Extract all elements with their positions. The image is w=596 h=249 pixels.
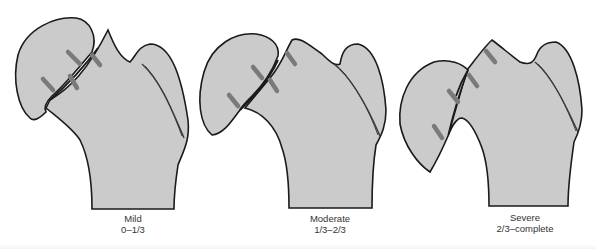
severity-title: Mild xyxy=(78,213,188,224)
severity-range: 2/3–complete xyxy=(470,223,580,234)
severity-range: 1/3–2/3 xyxy=(275,224,385,235)
cropped-caption-strip xyxy=(0,244,596,249)
severity-title: Severe xyxy=(470,212,580,223)
panel-label-mild: Mild 0–1/3 xyxy=(78,213,188,235)
panel-label-moderate: Moderate 1/3–2/3 xyxy=(275,213,385,235)
femur-shaft-neck-severe xyxy=(448,40,582,206)
femoral-head-slip-severity-diagram: Mild 0–1/3 Moderate 1/3–2/3 Severe 2/3–c… xyxy=(0,0,596,249)
femur-moderate xyxy=(200,34,386,208)
femur-severe xyxy=(400,40,582,206)
femur-mild xyxy=(16,18,189,209)
severity-title: Moderate xyxy=(275,213,385,224)
panel-label-severe: Severe 2/3–complete xyxy=(470,212,580,234)
severity-range: 0–1/3 xyxy=(78,224,188,235)
